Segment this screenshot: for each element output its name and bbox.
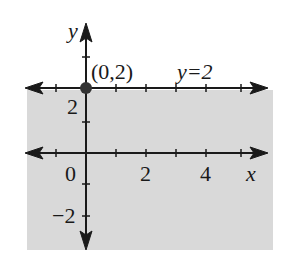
y-axis-label: y [66,18,78,43]
y-tick-label-neg2: −2 [52,203,75,228]
y-tick-label-2: 2 [67,94,78,119]
x-tick-label-2: 2 [140,161,151,186]
x-axis-label: x [245,161,256,186]
x-tick-label-4: 4 [200,161,211,186]
graph: y (0,2) y=2 2 0 2 4 x −2 [0,0,286,265]
point-label: (0,2) [91,59,133,84]
x-tick-label-0: 0 [65,161,76,186]
line-label: y=2 [175,59,213,84]
